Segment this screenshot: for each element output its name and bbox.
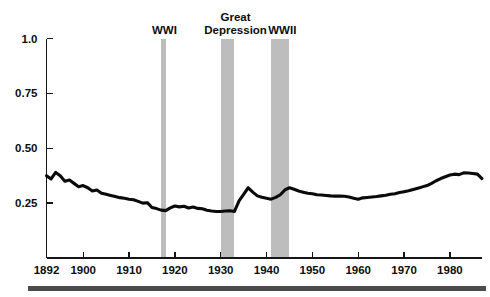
band-labels: WWI Great Depression WWII	[152, 11, 296, 36]
x-tick-label-1970: 1970	[391, 264, 417, 276]
footer-rule	[28, 286, 486, 291]
historical-share-line-chart: WWI Great Depression WWII 1.0 0.75 0.50 …	[0, 0, 490, 297]
y-axis-tick-labels: 1.0 0.75 0.50 0.25	[15, 33, 38, 210]
band-label-great-depression-line1: Great	[221, 11, 251, 23]
band-wwi	[161, 39, 166, 259]
x-tick-label-1980: 1980	[437, 264, 463, 276]
x-axis-ticks	[47, 252, 450, 258]
x-tick-label-1940: 1940	[254, 264, 280, 276]
y-tick-label-1: 1.0	[22, 33, 38, 45]
x-tick-label-1960: 1960	[345, 264, 371, 276]
y-tick-label-2: 0.75	[15, 87, 38, 99]
x-axis-tick-labels: 1892190019101920193019401950196019701980	[34, 264, 463, 276]
x-axis: 1892190019101920193019401950196019701980	[34, 252, 482, 276]
y-tick-label-4: 0.25	[15, 197, 38, 209]
band-label-great-depression-line2: Depression	[204, 24, 267, 36]
band-wwii	[271, 39, 289, 259]
x-tick-label-1950: 1950	[300, 264, 326, 276]
shaded-event-bands	[161, 39, 289, 259]
y-tick-label-3: 0.50	[15, 142, 37, 154]
band-great-depression	[221, 39, 235, 259]
band-label-wwii: WWII	[268, 24, 296, 36]
data-series-line	[47, 172, 483, 211]
chart-container: WWI Great Depression WWII 1.0 0.75 0.50 …	[0, 0, 490, 297]
x-tick-label-1910: 1910	[116, 264, 142, 276]
x-tick-label-1930: 1930	[208, 264, 234, 276]
y-axis: 1.0 0.75 0.50 0.25	[15, 33, 52, 259]
x-tick-label-1900: 1900	[70, 264, 96, 276]
band-label-wwi: WWI	[152, 24, 177, 36]
x-tick-label-1920: 1920	[162, 264, 188, 276]
x-tick-label-1892: 1892	[34, 264, 60, 276]
